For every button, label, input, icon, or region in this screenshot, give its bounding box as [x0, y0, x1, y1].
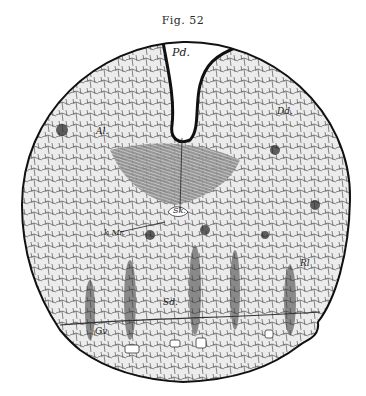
- label-sd: Sd.: [163, 297, 178, 307]
- microscopy-section-drawing: [0, 0, 366, 396]
- label-rl: Rl: [300, 258, 310, 268]
- label-kmr: k.Mr.: [104, 228, 125, 237]
- label-dd: Dd.: [277, 106, 293, 116]
- label-gv: Gv: [95, 326, 107, 336]
- tissue-section: [0, 0, 366, 396]
- label-pd: Pd.: [172, 46, 190, 59]
- label-ms: Ms: [176, 127, 187, 135]
- label-al: Al.: [96, 126, 108, 136]
- label-sk: Sk.: [173, 206, 186, 215]
